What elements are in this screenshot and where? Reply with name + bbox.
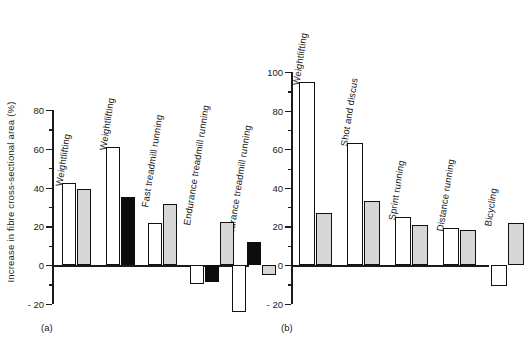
y-axis-tick-label: 40 [249, 182, 283, 193]
y-axis-tick-major [46, 149, 52, 150]
category-label-text: Sprint running [386, 159, 406, 221]
y-axis-tick-label: 20 [10, 221, 44, 232]
y-axis-tick-major [285, 304, 291, 305]
y-axis-tick-label: 80 [249, 105, 283, 116]
y-axis-tick-minor [288, 91, 292, 92]
y-axis-tick-label: 0 [10, 260, 44, 271]
zero-baseline [52, 265, 249, 267]
category-label-text: Distance running [434, 159, 456, 233]
bar [262, 265, 276, 275]
y-axis-tick-label: 60 [249, 144, 283, 155]
y-axis-tick-label: 100 [249, 67, 283, 78]
y-axis-tick-minor [49, 207, 53, 208]
category-label-text: Weightlifting [97, 97, 116, 151]
y-axis-tick-label: 20 [249, 221, 283, 232]
category-label-text: Endurance treadmill running [181, 105, 211, 227]
category-label-text: Fast treadmill running [139, 114, 164, 208]
y-axis-tick-label: - 20 [10, 298, 44, 309]
bar [347, 143, 363, 265]
bar [190, 265, 204, 284]
bar [232, 265, 246, 312]
bar [148, 223, 162, 265]
bar [205, 265, 219, 282]
y-axis-tick-major [46, 265, 52, 266]
category-label-text: Weightlifting [53, 133, 72, 187]
bar [121, 197, 135, 265]
y-axis-tick-major [46, 188, 52, 189]
y-axis-tick-minor [288, 169, 292, 170]
y-axis-tick-label: 80 [10, 105, 44, 116]
y-axis-tick-minor [49, 129, 53, 130]
y-axis-tick-label: 40 [10, 182, 44, 193]
y-axis-tick-minor [49, 246, 53, 247]
y-axis-tick-label: - 20 [249, 298, 283, 309]
y-axis-tick-major [285, 111, 291, 112]
y-axis-tick-minor [49, 168, 53, 169]
y-axis-tick-major [46, 110, 52, 111]
y-axis-tick-minor [288, 284, 292, 285]
bar [247, 242, 261, 265]
chart-panel-b: - 20020406080100WeightliftingShot and di… [253, 0, 493, 343]
y-axis-tick-minor [288, 246, 292, 247]
bar [412, 225, 428, 265]
category-label-text: Weightlifting [290, 32, 309, 86]
bar [443, 228, 459, 265]
bar [163, 204, 177, 265]
bar [77, 189, 91, 265]
y-axis-tick-major [46, 226, 52, 227]
zero-baseline [291, 265, 489, 267]
bar [460, 230, 476, 265]
category-label-text: Shot and discus [338, 77, 360, 147]
y-axis [291, 72, 293, 304]
bar [491, 265, 507, 286]
bar [299, 82, 315, 265]
bar [364, 201, 380, 265]
chart-panel-a: - 20020406080WeightliftingWeightliftingF… [0, 0, 253, 343]
y-axis-tick-label: 60 [10, 143, 44, 154]
y-axis-tick-major [46, 304, 52, 305]
y-axis-tick-major [285, 188, 291, 189]
category-label-text: Bicycling [482, 187, 499, 227]
y-axis-tick-minor [288, 207, 292, 208]
y-axis [52, 110, 54, 304]
y-axis-tick-minor [288, 130, 292, 131]
panel-b-caption: (b) [281, 322, 293, 333]
bar [106, 147, 120, 265]
y-axis-tick-major [285, 265, 291, 266]
y-axis-tick-major [285, 226, 291, 227]
y-axis-tick-major [285, 72, 291, 73]
panel-a-caption: (a) [41, 322, 53, 333]
bar [508, 223, 524, 265]
y-axis-tick-major [285, 149, 291, 150]
bar [220, 222, 234, 265]
bar [316, 213, 332, 265]
y-axis-tick-minor [49, 284, 53, 285]
bar [395, 217, 411, 265]
bar [62, 183, 76, 265]
